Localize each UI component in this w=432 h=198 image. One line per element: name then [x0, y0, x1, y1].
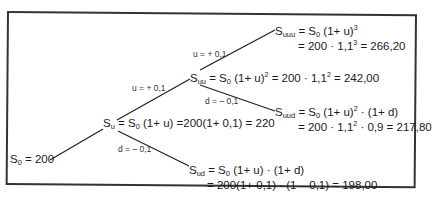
- node-s0: S0 = 200: [10, 154, 54, 167]
- node-su: Su = S0 (1+ u) =200(1+ 0,1) = 220: [103, 118, 275, 131]
- edge-label-u2: u = + 0,1: [193, 50, 227, 59]
- node-suud-value: = 200 · 1,12 · 0,9 = 217,80: [298, 120, 432, 134]
- edge-label-u1: u = + 0,1: [132, 84, 166, 93]
- node-suuu-value: = 200 · 1,13 = 266,20: [298, 39, 406, 53]
- edge-label-d1: d = – 0,1: [118, 145, 151, 154]
- node-suuu: Suuu = S0 (1+ u)3: [275, 24, 358, 39]
- edge-s0-su: [50, 129, 103, 160]
- node-suud: Suud = S0 (1+ u)2 · (1+ d): [275, 105, 398, 120]
- node-sud-value: = 200(1+ 0,1) · (1 – 0,1) = 198,00: [207, 180, 377, 192]
- node-sud: Sud = S0 (1+ u) · (1+ d): [189, 165, 304, 178]
- node-suu: Suu = S0 (1+ u)2 = 200 · 1,12 = 242,00: [190, 71, 379, 86]
- edge-label-d2: d = – 0,1: [205, 97, 238, 106]
